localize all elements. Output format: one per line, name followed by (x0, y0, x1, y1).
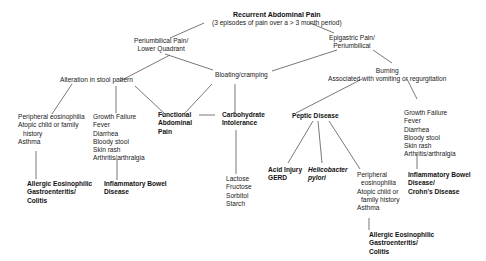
burning-line: Burning (328, 67, 446, 75)
root-title: Recurrent Abdominal Pain (212, 11, 342, 19)
left-growth-node: Growth Failure Fever Diarrhea Bloody sto… (93, 113, 145, 163)
edge-epigastric-burning (373, 50, 392, 63)
edge-peptic-hpylori (318, 121, 322, 163)
diagnosis-line: Helicobacter (308, 166, 348, 174)
criteria-line: eosinophilia (357, 179, 399, 187)
carbohydrate-node: Carbohydrate Intolerance (222, 111, 265, 128)
edge-peptic-righteos (329, 121, 360, 169)
diagnosis-line: Gastroenteritis/ (27, 188, 92, 196)
criteria-line: Atopic child or family (18, 121, 85, 129)
periumbilical-line: Periumbilical Pain/ (134, 37, 188, 45)
criteria-line: family history (357, 196, 399, 204)
criteria-line: Atopic child or (357, 188, 399, 196)
diagnosis-line: Pain (158, 128, 192, 136)
burning-node: Burning Associated with vomiting or regu… (328, 67, 446, 84)
criteria-line: history (18, 130, 85, 138)
root-subtitle: (3 episodes of pain over a > 3 month per… (212, 19, 342, 27)
diagnosis-line: Allergic Eosinophilic (369, 231, 434, 239)
sugar-line: Starch (226, 200, 252, 208)
periumbilical-node: Periumbilical Pain/ Lower Quadrant (134, 37, 188, 54)
criteria-line: Fever (404, 117, 456, 125)
edge-bloating-functional (184, 84, 212, 114)
criteria-line: Diarrhea (93, 130, 145, 138)
diagnosis-line: Crohn's Disease (408, 188, 471, 196)
criteria-line: Peripheral eosinophilia (18, 113, 85, 121)
sugar-line: Sorbitol (226, 192, 252, 200)
sugar-line: Fructose (226, 183, 252, 191)
epigastric-line: Periumbilical (329, 42, 375, 50)
diagnosis-line: Colitis (369, 248, 434, 256)
diagnosis-line: Disease (104, 188, 167, 196)
sugars-node: Lactose Fructose Sorbitol Starch (226, 175, 252, 208)
criteria-line: Bloody stool (93, 138, 145, 146)
edge-burning-peptic (296, 79, 362, 113)
bloating-node: Bloating/cramping (215, 71, 268, 79)
stool-pattern-node: Alteration in stool pattern (60, 76, 133, 84)
criteria-line: Skin rash (404, 142, 456, 150)
right-allergic-node: Allergic Eosinophilic Gastroenteritis/ C… (369, 231, 434, 256)
criteria-line: Fever (93, 121, 145, 129)
diagnosis-line: Abdominal (158, 119, 192, 127)
diagnosis-line: pylori (308, 174, 348, 182)
burning-line: Associated with vomiting or regurgitatio… (328, 75, 446, 83)
edge-stool-functional (135, 86, 165, 114)
right-eosinophilia-node: Peripheral eosinophilia Atopic child or … (357, 171, 399, 212)
functional-pain-node: Functional Abdominal Pain (158, 111, 192, 136)
diagnosis-line: Acid Injury (268, 166, 302, 174)
root-node: Recurrent Abdominal Pain (3 episodes of … (212, 11, 342, 28)
left-ibd-node: Inflammatory Bowel Disease (104, 180, 167, 197)
criteria-line: Bloody stool (404, 134, 456, 142)
criteria-line: Asthma (18, 138, 85, 146)
criteria-line: Skin rash (93, 146, 145, 154)
criteria-line: Growth Failure (404, 109, 456, 117)
sugar-line: Lactose (226, 175, 252, 183)
left-allergic-node: Allergic Eosinophilic Gastroenteritis/ C… (27, 180, 92, 205)
acid-injury-node: Acid Injury GERD (268, 166, 302, 183)
criteria-line: Asthma (357, 204, 399, 212)
diagnosis-line: Colitis (27, 197, 92, 205)
right-growth-node: Growth Failure Fever Diarrhea Bloody sto… (404, 109, 456, 159)
edge-peptic-acid (288, 121, 313, 163)
criteria-line: Diarrhea (404, 126, 456, 134)
diagnosis-line: Inflammatory Bowel (104, 180, 167, 188)
diagnosis-line: Intolerance (222, 119, 265, 127)
epigastric-node: Epigastric Pain/ Periumbilical (329, 34, 375, 51)
criteria-line: Arthritis/arthralgia (93, 154, 145, 162)
edge-periumbilical-bloating (165, 54, 213, 70)
criteria-line: Arthritis/arthralgia (404, 150, 456, 158)
right-ibd-node: Inflammatory Bowel Disease/ Crohn's Dise… (408, 171, 471, 196)
diagnosis-line: GERD (268, 174, 302, 182)
edge-root-periumbilical (170, 23, 204, 38)
periumbilical-line: Lower Quadrant (134, 45, 188, 53)
peptic-disease-node: Peptic Disease (292, 112, 339, 120)
diagnosis-line: Functional (158, 111, 192, 119)
diagnosis-line: Allergic Eosinophilic (27, 180, 92, 188)
criteria-line: Growth Failure (93, 113, 145, 121)
edge-stool-eos (52, 84, 72, 114)
left-eosinophilia-node: Peripheral eosinophilia Atopic child or … (18, 113, 85, 146)
epigastric-line: Epigastric Pain/ (329, 34, 375, 42)
diagnosis-line: Gastroenteritis/ (369, 239, 434, 247)
diagnosis-line: Carbohydrate (222, 111, 265, 119)
diagnosis-line: Inflammatory Bowel (408, 171, 471, 179)
diagnosis-line: Disease/ (408, 179, 471, 187)
hpylori-node: Helicobacter pylori (308, 166, 348, 183)
criteria-line: Peripheral (357, 171, 399, 179)
